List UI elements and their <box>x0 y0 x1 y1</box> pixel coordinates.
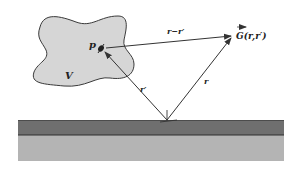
substrate <box>18 120 284 161</box>
vector-r-prime <box>105 52 167 120</box>
label-volume-v: V <box>65 70 74 81</box>
substrate-bottom-layer <box>18 135 284 161</box>
label-green-function-group: G(r,r′) <box>236 27 267 42</box>
label-r: r <box>204 76 209 86</box>
label-green-function: G(r,r′) <box>236 31 267 42</box>
volume-region <box>33 16 134 86</box>
diagram-canvas: p V r−r′ G(r,r′) r′ r <box>0 0 297 171</box>
label-r-minus-r-prime: r−r′ <box>167 26 185 36</box>
vector-r <box>167 38 231 120</box>
substrate-top-layer <box>18 120 284 135</box>
label-r-prime: r′ <box>140 84 147 94</box>
label-point-p: p <box>89 39 96 50</box>
